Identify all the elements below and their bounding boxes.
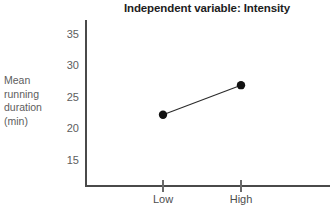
- data-line: [163, 85, 241, 115]
- plot-area: [0, 0, 330, 218]
- data-point-high: [237, 81, 245, 89]
- data-point-low: [159, 111, 167, 119]
- chart-figure: Independent variable: Intensity Mean run…: [0, 0, 330, 218]
